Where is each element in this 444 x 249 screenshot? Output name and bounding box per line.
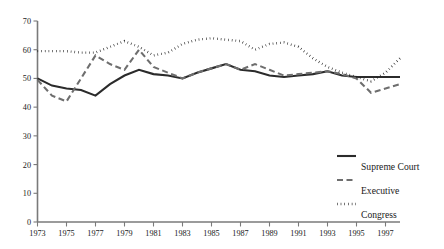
x-tick-label: 1997 xyxy=(377,229,393,238)
legend-label-executive: Executive xyxy=(361,185,399,196)
y-tick-label: 60 xyxy=(23,46,31,55)
line-chart-figure: 010203040506070 197319751977197919811983… xyxy=(0,0,444,249)
y-tick-label: 70 xyxy=(23,17,31,26)
x-tick-label: 1975 xyxy=(58,229,74,238)
x-axis-ticks: 1973197519771979198119831985198719891991… xyxy=(29,222,393,238)
chart-canvas: 010203040506070 197319751977197919811983… xyxy=(0,0,444,249)
legend-label-supreme-court: Supreme Court xyxy=(361,161,420,172)
y-tick-label: 20 xyxy=(23,161,31,170)
y-tick-label: 40 xyxy=(23,103,31,112)
x-tick-label: 1993 xyxy=(319,229,335,238)
legend-label-congress: Congress xyxy=(361,209,397,220)
x-tick-label: 1985 xyxy=(203,229,219,238)
y-tick-label: 50 xyxy=(23,74,31,83)
x-tick-label: 1987 xyxy=(232,229,248,238)
x-tick-label: 1991 xyxy=(290,229,306,238)
chart-legend: Supreme CourtExecutiveCongress xyxy=(337,156,420,220)
x-tick-label: 1989 xyxy=(261,229,277,238)
x-axis-group: 1973197519771979198119831985198719891991… xyxy=(29,222,400,238)
x-tick-label: 1977 xyxy=(87,229,103,238)
x-tick-label: 1995 xyxy=(348,229,364,238)
y-tick-label: 10 xyxy=(23,189,31,198)
y-tick-label: 0 xyxy=(27,218,31,227)
data-series-group xyxy=(38,38,401,101)
x-tick-label: 1981 xyxy=(145,229,161,238)
y-axis-group: 010203040506070 xyxy=(23,17,38,227)
y-axis-ticks: 010203040506070 xyxy=(23,17,38,227)
x-tick-label: 1973 xyxy=(29,229,45,238)
x-tick-label: 1983 xyxy=(174,229,190,238)
series-line-supreme-court xyxy=(38,64,401,96)
x-tick-label: 1979 xyxy=(116,229,132,238)
y-tick-label: 30 xyxy=(23,132,31,141)
